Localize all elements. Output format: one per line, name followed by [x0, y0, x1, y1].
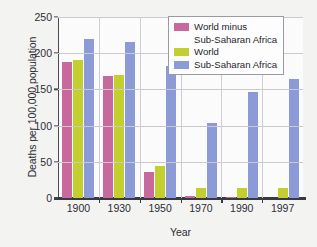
- y-axis-title: Deaths per 100,000 population: [26, 12, 38, 202]
- legend-item-world-minus-ssa: World minus: [174, 21, 277, 33]
- legend-label-world: World: [194, 46, 219, 58]
- chart-legend: World minus Sub-Saharan Africa World Sub…: [168, 16, 284, 75]
- bar-1990-olive: [237, 188, 247, 198]
- bar-chart: Deaths per 100,000 population 0501001502…: [0, 0, 317, 247]
- x-axis-tick-label-1970: 1970: [180, 202, 221, 214]
- bar-1930-blue: [125, 42, 135, 198]
- legend-swatch-icon-pink: [174, 23, 189, 31]
- x-axis-tick-label-1997: 1997: [262, 202, 303, 214]
- y-axis-tick-label: 0: [46, 192, 52, 204]
- bar-1930-pink: [103, 76, 113, 198]
- y-axis-tick-mark: [54, 89, 58, 90]
- bar-1990-pink: [226, 197, 236, 198]
- bar-1900-olive: [73, 60, 83, 198]
- legend-swatch-spacer: [174, 36, 189, 44]
- legend-item-world: World: [174, 46, 277, 58]
- group-separator: [99, 17, 100, 198]
- legend-item-sub-saharan-africa: Sub-Saharan Africa: [174, 59, 277, 71]
- y-axis-tick-mark: [54, 53, 58, 54]
- bar-1997-blue: [289, 79, 299, 198]
- x-axis-tick-label-1930: 1930: [99, 202, 140, 214]
- legend-swatch-icon-olive: [174, 48, 189, 56]
- legend-item-world-minus-ssa-cont: Sub-Saharan Africa: [174, 34, 277, 46]
- bar-1900-blue: [84, 39, 94, 198]
- bar-1950-pink: [144, 172, 154, 198]
- legend-label-ssa: Sub-Saharan Africa: [194, 59, 277, 71]
- y-axis-tick-mark: [54, 197, 58, 198]
- bar-1970-pink: [185, 196, 195, 198]
- bar-1970-olive: [196, 188, 206, 198]
- legend-swatch-icon-blue: [174, 61, 189, 69]
- bar-1970-blue: [207, 123, 217, 198]
- x-axis-title: Year: [58, 226, 303, 238]
- x-axis-tick-labels: 190019301950197019901997: [58, 202, 303, 214]
- bar-1950-blue: [166, 66, 176, 198]
- group-separator: [140, 17, 141, 198]
- x-axis-tick-label-1900: 1900: [58, 202, 99, 214]
- y-axis-tick-label: 150: [34, 83, 52, 95]
- legend-label-line1: World minus: [194, 21, 247, 33]
- y-axis-tick-label: 50: [40, 156, 52, 168]
- y-axis-tick-mark: [54, 16, 58, 17]
- x-axis-tick-label-1990: 1990: [221, 202, 262, 214]
- y-axis-tick-mark: [54, 125, 58, 126]
- y-axis-tick-label: 100: [34, 120, 52, 132]
- x-axis-tick-label-1950: 1950: [140, 202, 181, 214]
- bar-1950-olive: [155, 166, 165, 198]
- bar-1990-blue: [248, 92, 258, 198]
- bar-1997-olive: [278, 188, 288, 198]
- bar-group-1930: [99, 17, 140, 198]
- y-axis-tick-label: 250: [34, 11, 52, 23]
- y-axis-tick-label: 200: [34, 47, 52, 59]
- bar-1930-olive: [114, 75, 124, 198]
- legend-label-line2: Sub-Saharan Africa: [194, 34, 277, 46]
- y-axis-tick-mark: [54, 161, 58, 162]
- bar-group-1900: [58, 17, 99, 198]
- bar-1900-pink: [62, 62, 72, 198]
